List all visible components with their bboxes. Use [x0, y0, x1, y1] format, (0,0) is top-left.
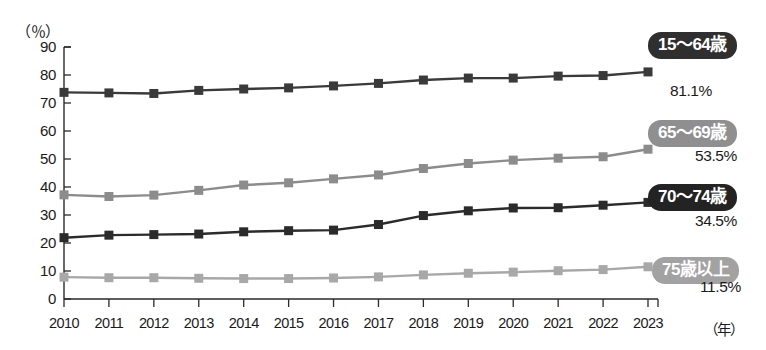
x-tick-label: 2017: [354, 315, 402, 331]
series-marker: [464, 159, 473, 168]
series-marker: [554, 72, 563, 81]
series-marker: [329, 174, 338, 183]
y-tick-label: 90: [26, 38, 56, 55]
series-marker: [374, 220, 383, 229]
series-marker: [284, 83, 293, 92]
series-marker: [554, 203, 563, 212]
series-marker: [509, 156, 518, 165]
series-marker: [60, 233, 69, 242]
series-marker: [104, 88, 113, 97]
series-marker: [194, 230, 203, 239]
y-tick-label: 40: [26, 178, 56, 195]
y-tick-label: 0: [26, 290, 56, 307]
series-marker: [149, 89, 158, 98]
series-marker: [194, 274, 203, 283]
x-tick-label: 2021: [534, 315, 582, 331]
series-marker: [374, 79, 383, 88]
x-tick-marks: [64, 299, 658, 307]
series-marker: [464, 74, 473, 83]
x-tick-label: 2015: [265, 315, 313, 331]
series-marker: [599, 201, 608, 210]
series-marker: [464, 206, 473, 215]
series-marker: [419, 76, 428, 85]
series-marker: [60, 88, 69, 97]
series-marker: [194, 186, 203, 195]
data-series-layer: [60, 67, 653, 283]
legend-badge-2[interactable]: 65〜69歳: [648, 120, 737, 147]
series-marker: [419, 270, 428, 279]
x-tick-label: 2010: [40, 315, 88, 331]
y-tick-label: 10: [26, 262, 56, 279]
series-marker: [149, 273, 158, 282]
y-tick-label: 30: [26, 206, 56, 223]
x-tick-label: 2014: [220, 315, 268, 331]
series-marker: [464, 269, 473, 278]
series-marker: [239, 274, 248, 283]
legend-badge-1[interactable]: 15〜64歳: [648, 32, 737, 59]
series-marker: [554, 154, 563, 163]
x-tick-label: 2023: [624, 315, 672, 331]
series-marker: [419, 164, 428, 173]
series-marker: [644, 145, 653, 154]
x-axis-unit-label: （年）: [704, 318, 743, 339]
series-marker: [509, 268, 518, 277]
series-marker: [104, 192, 113, 201]
x-tick-label: 2018: [399, 315, 447, 331]
series-marker: [60, 273, 69, 282]
series-marker: [104, 273, 113, 282]
series-marker: [149, 191, 158, 200]
legend-value-2: 53.5%: [695, 147, 737, 165]
series-marker: [509, 204, 518, 213]
series-marker: [60, 190, 69, 199]
series-marker: [599, 71, 608, 80]
series-marker: [599, 265, 608, 274]
series-marker: [644, 67, 653, 76]
series-marker: [149, 230, 158, 239]
series-marker: [284, 226, 293, 235]
x-tick-label: 2012: [130, 315, 178, 331]
y-tick-marks: [64, 47, 71, 299]
series-marker: [599, 152, 608, 161]
x-tick-label: 2011: [85, 315, 133, 331]
legend-value-1: 81.1%: [670, 82, 712, 100]
x-tick-label: 2022: [579, 315, 627, 331]
y-tick-label: 50: [26, 150, 56, 167]
y-tick-label: 20: [26, 234, 56, 251]
x-tick-label: 2019: [444, 315, 492, 331]
y-tick-label: 80: [26, 66, 56, 83]
series-marker: [284, 274, 293, 283]
series-marker: [329, 226, 338, 235]
series-marker: [329, 81, 338, 90]
series-marker: [509, 74, 518, 83]
y-tick-label: 70: [26, 94, 56, 111]
series-marker: [239, 181, 248, 190]
series-marker: [419, 211, 428, 220]
series-marker: [554, 266, 563, 275]
series-marker: [374, 272, 383, 281]
series-marker: [239, 227, 248, 236]
series-marker: [329, 274, 338, 283]
series-marker: [194, 86, 203, 95]
series-marker: [284, 178, 293, 187]
series-marker: [239, 85, 248, 94]
chart-container: （％） 0102030405060708090 2010201120122013…: [0, 0, 766, 350]
legend-value-3: 34.5%: [695, 212, 737, 230]
legend-badge-3[interactable]: 70〜74歳: [648, 184, 737, 211]
x-tick-label: 2016: [310, 315, 358, 331]
legend-value-4: 11.5%: [700, 278, 741, 296]
y-tick-label: 60: [26, 122, 56, 139]
series-marker: [374, 170, 383, 179]
x-tick-label: 2013: [175, 315, 223, 331]
series-marker: [104, 231, 113, 240]
x-tick-label: 2020: [489, 315, 537, 331]
